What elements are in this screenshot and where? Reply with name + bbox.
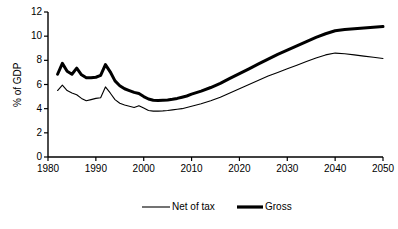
x-tick-label-7: 2050: [361, 164, 398, 174]
x-tick-label-1: 1990: [74, 164, 118, 174]
chart-series-group: [58, 27, 383, 112]
legend-label-1: Gross: [265, 202, 292, 212]
legend-label-0: Net of tax: [172, 202, 215, 212]
y-tick-label-5: 10: [14, 31, 42, 41]
x-tick-label-2: 2000: [122, 164, 166, 174]
y-tick-label-6: 12: [14, 7, 42, 17]
y-tick-label-0: 0: [14, 152, 42, 162]
y-tick-label-3: 6: [14, 80, 42, 90]
x-tick-label-5: 2030: [265, 164, 309, 174]
x-tick-label-6: 2040: [313, 164, 357, 174]
y-tick-label-4: 8: [14, 55, 42, 65]
x-tick-label-3: 2010: [170, 164, 214, 174]
chart-figure: % of GDP 024681012 198019902000201020202…: [0, 0, 398, 229]
line-chart-plot: [0, 0, 398, 229]
y-tick-label-2: 4: [14, 104, 42, 114]
y-tick-label-1: 2: [14, 128, 42, 138]
x-tick-label-0: 1980: [26, 164, 70, 174]
x-tick-label-4: 2020: [217, 164, 261, 174]
series-line-1: [58, 27, 383, 101]
